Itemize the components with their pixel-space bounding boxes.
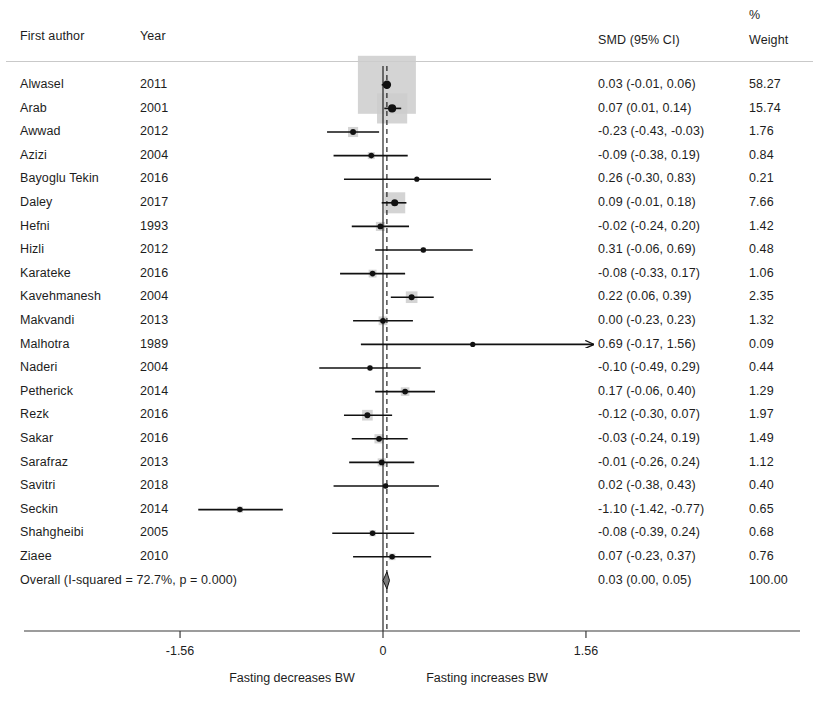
study-weight: 0.76 (749, 549, 774, 563)
point-estimate-marker (377, 223, 383, 229)
study-year: 2004 (140, 360, 168, 374)
point-estimate-marker (421, 247, 426, 252)
study-ci-marker (334, 153, 408, 159)
weight-box (368, 152, 375, 159)
point-estimate-marker (383, 81, 391, 89)
study-smd: 0.26 (-0.30, 0.83) (598, 171, 696, 185)
point-estimate-marker (388, 104, 396, 112)
study-weight: 0.48 (749, 242, 774, 256)
study-ci-marker (382, 199, 407, 206)
weight-box (369, 270, 377, 278)
study-weight: 1.76 (749, 124, 774, 138)
study-ci-marker (344, 412, 392, 418)
point-estimate-marker (367, 365, 372, 370)
study-weight: 1.42 (749, 219, 774, 233)
study-author-makvandi: Makvandi (20, 313, 74, 327)
study-author-naderi: Naderi (20, 360, 57, 374)
study-ci-marker (340, 271, 405, 277)
study-year: 2010 (140, 549, 168, 563)
study-year: 2014 (140, 384, 168, 398)
study-ci-marker (352, 223, 409, 229)
study-weight: 0.21 (749, 171, 774, 185)
weight-box (362, 410, 373, 421)
study-smd: -0.08 (-0.33, 0.17) (598, 266, 700, 280)
study-weight: 0.65 (749, 502, 774, 516)
study-weight: 0.09 (749, 337, 774, 351)
study-author-azizi: Azizi (20, 148, 47, 162)
weight-box (376, 222, 385, 231)
forest-graphics (0, 0, 819, 705)
weight-box (421, 247, 426, 252)
study-weight: 1.29 (749, 384, 774, 398)
study-ci-marker (375, 247, 473, 252)
study-author-rezk: Rezk (20, 407, 49, 421)
point-estimate-marker (414, 177, 419, 182)
study-author-hizli: Hizli (20, 242, 44, 256)
study-year: 2001 (140, 101, 168, 115)
study-author-kavehmanesh: Kavehmanesh (20, 289, 101, 303)
x-axis-tick-label: 1.56 (574, 644, 598, 658)
column-header-weight: Weight (749, 33, 788, 47)
study-weight: 1.06 (749, 266, 774, 280)
study-ci-marker (332, 530, 414, 535)
study-smd: -0.10 (-0.49, 0.29) (598, 360, 700, 374)
point-estimate-marker (470, 342, 475, 347)
weight-box (358, 56, 416, 114)
study-smd: 0.03 (-0.01, 0.06) (598, 77, 696, 91)
study-year: 2014 (140, 502, 168, 516)
column-header-smd: SMD (95% CI) (598, 33, 680, 47)
x-axis-tick-label: -1.56 (166, 644, 195, 658)
study-ci-marker (319, 365, 420, 370)
weight-box (374, 434, 383, 443)
study-author-seckin: Seckin (20, 502, 58, 516)
overall-effect-diamond (383, 572, 390, 589)
study-ci-marker (391, 294, 434, 300)
weight-box (406, 291, 418, 303)
study-author-awwad: Awwad (20, 124, 61, 138)
point-estimate-marker (409, 294, 415, 300)
point-estimate-marker (379, 460, 385, 466)
point-estimate-marker (370, 530, 375, 535)
study-smd: -0.08 (-0.39, 0.24) (598, 525, 700, 539)
study-smd: 0.22 (0.06, 0.39) (598, 289, 691, 303)
weight-box (348, 127, 358, 137)
study-year: 2016 (140, 431, 168, 445)
weight-box (401, 387, 410, 396)
study-author-sarafraz: Sarafraz (20, 455, 68, 469)
study-author-arab: Arab (20, 101, 47, 115)
study-smd: -0.12 (-0.30, 0.07) (598, 407, 700, 421)
study-author-karateke: Karateke (20, 266, 71, 280)
study-weight: 1.49 (749, 431, 774, 445)
column-header-first-author: First author (20, 29, 84, 43)
study-year: 2005 (140, 525, 168, 539)
weight-box (378, 458, 386, 466)
study-smd: -0.23 (-0.43, -0.03) (598, 124, 704, 138)
study-year: 2016 (140, 171, 168, 185)
overall-label: Overall (I-squared = 72.7%, p = 0.000) (20, 573, 237, 587)
study-smd: 0.02 (-0.38, 0.43) (598, 478, 696, 492)
study-year: 2016 (140, 266, 168, 280)
study-year: 2018 (140, 478, 168, 492)
study-year: 2017 (140, 195, 168, 209)
study-smd: -0.02 (-0.24, 0.20) (598, 219, 700, 233)
overall-smd: 0.03 (0.00, 0.05) (598, 573, 691, 587)
point-estimate-marker (376, 436, 382, 442)
study-author-hefni: Hefni (20, 219, 50, 233)
study-author-shahgheibi: Shahgheibi (20, 525, 84, 539)
study-smd: 0.69 (-0.17, 1.56) (598, 337, 696, 351)
overall-weight: 100.00 (749, 573, 788, 587)
study-smd: 0.17 (-0.06, 0.40) (598, 384, 696, 398)
weight-box (471, 342, 475, 346)
study-smd: 0.07 (0.01, 0.14) (598, 101, 691, 115)
study-ci-marker (382, 81, 391, 89)
study-year: 1993 (140, 219, 168, 233)
axis-direction-label-right: Fasting increases BW (426, 671, 548, 685)
forest-plot: First author Year SMD (95% CI) % Weight … (0, 0, 819, 705)
study-weight: 1.97 (749, 407, 774, 421)
weight-box (369, 530, 375, 536)
study-weight: 0.68 (749, 525, 774, 539)
point-estimate-marker (364, 412, 370, 418)
study-year: 2016 (140, 407, 168, 421)
study-smd: -1.10 (-1.42, -0.77) (598, 502, 704, 516)
study-year: 1989 (140, 337, 168, 351)
